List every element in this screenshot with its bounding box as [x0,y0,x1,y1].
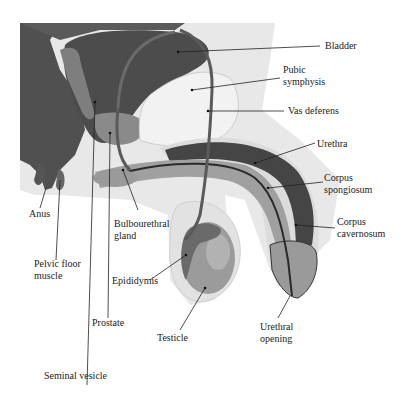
glans [270,241,317,298]
label-seminal-vesicle: Seminal vesicle [44,370,107,382]
label-pubic-symphysis: Pubic symphysis [283,64,325,88]
label-bladder: Bladder [325,40,357,52]
label-corpus-cavernosum: Corpus cavernosum [337,216,385,240]
label-bulbourethral-gland: Bulbourethral gland [114,218,170,242]
label-testicle: Testicle [157,332,188,344]
label-vas-deferens: Vas deferens [288,105,339,117]
label-prostate: Prostate [92,317,124,329]
label-epididymis: Epididymis [112,275,158,287]
anatomy-illustration [0,0,404,397]
label-anus: Anus [29,208,50,220]
label-pelvic-floor-muscle: Pelvic floor muscle [34,258,81,282]
label-urethral-opening: Urethral opening [260,321,293,345]
bulb-shape [93,169,137,187]
label-corpus-spongiosum: Corpus spongiosum [324,172,372,196]
anatomy-diagram: Bladder Pubic symphysis Vas deferens Ure… [0,0,404,397]
label-urethra: Urethra [317,138,348,150]
